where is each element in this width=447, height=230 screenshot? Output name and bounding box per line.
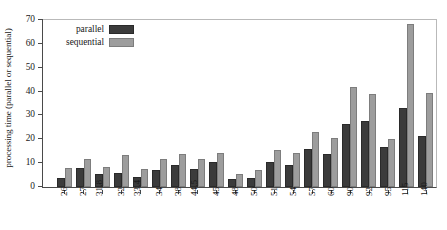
bar-parallel	[380, 147, 387, 187]
bar-group	[245, 20, 264, 187]
bar-sequential	[217, 153, 224, 187]
x-axis-tick-label: 140	[419, 182, 429, 196]
bar-group	[150, 20, 169, 187]
x-axis-tick-group: 33.4	[130, 190, 149, 230]
x-axis-tick-group: 31.8	[92, 190, 111, 230]
x-axis-tick-group: 26	[54, 190, 73, 230]
bar-parallel	[418, 136, 425, 187]
bar-group	[359, 20, 378, 187]
bar-sequential	[331, 138, 338, 187]
x-axis-tick-group: 44.5	[188, 190, 207, 230]
y-axis-tick-label: 70	[26, 13, 35, 26]
bar-sequential	[179, 154, 186, 187]
y-axis-label: processing time (parallel or sequential)	[3, 28, 13, 167]
legend-swatch	[109, 25, 134, 34]
bar-group	[169, 20, 188, 187]
bar-sequential	[65, 168, 72, 187]
bar-sequential	[160, 159, 167, 187]
bar-parallel	[285, 165, 292, 187]
bar-parallel	[266, 162, 273, 187]
x-axis-tick-label: 45	[212, 187, 222, 196]
legend-label: parallel	[76, 24, 104, 35]
bar-sequential	[122, 155, 129, 187]
bar-sequential	[350, 87, 357, 187]
bar-parallel	[57, 178, 64, 187]
bar-sequential	[274, 150, 281, 187]
bar-parallel	[76, 168, 83, 187]
bar-sequential	[369, 94, 376, 187]
x-axis-tick-label: 26	[59, 187, 69, 196]
x-axis-tick-group: 51	[264, 190, 283, 230]
legend-item: sequential	[66, 37, 134, 48]
bar-group	[397, 20, 416, 187]
y-axis-tick-label: 20	[26, 132, 35, 145]
bar-group	[188, 20, 207, 187]
y-axis-tick-label: 40	[26, 85, 35, 98]
x-axis-tick-group: 32	[111, 190, 130, 230]
x-axis-tick-label: 38	[174, 187, 184, 196]
bar-sequential	[255, 170, 262, 187]
bar-parallel	[171, 165, 178, 187]
bar-sequential	[293, 153, 300, 187]
bar-chart-figure: processing time (parallel or sequential)…	[0, 0, 447, 230]
bar-group	[340, 20, 359, 187]
bar-group	[264, 20, 283, 187]
legend-swatch	[109, 38, 134, 47]
y-axis-tick-label: 50	[26, 61, 35, 74]
bar-sequential	[236, 174, 243, 187]
bar-group	[321, 20, 340, 187]
bar-parallel	[228, 179, 235, 187]
legend-label: sequential	[66, 37, 104, 48]
x-axis-tick-label: 51	[269, 187, 279, 196]
x-axis-tick-label: 31.8	[94, 180, 104, 196]
bar-parallel	[114, 173, 121, 187]
bar-group	[378, 20, 397, 187]
x-axis-tick-label: 48	[231, 187, 241, 196]
bar-group	[302, 20, 321, 187]
chart-legend: parallelsequential	[66, 24, 134, 48]
x-axis-tick-label: 95	[384, 187, 394, 196]
x-axis-tick-group: 27	[73, 190, 92, 230]
y-axis-tick-label: 30	[26, 108, 35, 121]
bar-parallel	[399, 108, 406, 187]
x-axis-tick-group: 45	[207, 190, 226, 230]
x-axis-ticks: 262731.83233.4343844.5454850515457609092…	[42, 190, 437, 230]
x-axis-tick-label: 57	[307, 187, 317, 196]
x-axis-tick-label: 27	[78, 187, 88, 196]
bar-parallel	[152, 170, 159, 187]
bar-sequential	[312, 132, 319, 187]
bar-parallel	[342, 124, 349, 187]
y-axis-label-container: processing time (parallel or sequential)	[0, 0, 16, 195]
x-axis-tick-label: 115	[401, 183, 411, 196]
x-axis-tick-group: 140	[417, 190, 436, 230]
bar-sequential	[426, 93, 433, 187]
bar-group	[207, 20, 226, 187]
x-axis-tick-group: 38	[169, 190, 188, 230]
x-axis-tick-group: 34	[149, 190, 168, 230]
bar-group	[283, 20, 302, 187]
y-axis-tick-label: 0	[30, 180, 35, 193]
bar-parallel	[323, 154, 330, 187]
y-axis-tick-label: 60	[26, 37, 35, 50]
bar-parallel	[304, 149, 311, 187]
y-axis-tick-label: 10	[26, 156, 35, 169]
bar-sequential	[388, 139, 395, 187]
x-axis-tick-group: 54	[283, 190, 302, 230]
bar-parallel	[247, 178, 254, 187]
x-axis-tick-label: 50	[250, 187, 260, 196]
x-axis-tick-group: 95	[379, 190, 398, 230]
legend-item: parallel	[66, 24, 134, 35]
x-axis-tick-group: 57	[302, 190, 321, 230]
x-axis-tick-group: 92	[360, 190, 379, 230]
x-axis-tick-group: 115	[398, 190, 417, 230]
x-axis-tick-label: 44.5	[189, 180, 199, 196]
bar-sequential	[84, 159, 91, 187]
x-axis-tick-label: 54	[288, 187, 298, 196]
x-axis-tick-group: 48	[226, 190, 245, 230]
bar-group	[416, 20, 435, 187]
x-axis-tick-label: 32	[116, 187, 126, 196]
x-axis-tick-label: 90	[345, 187, 355, 196]
bar-parallel	[361, 121, 368, 187]
x-axis-tick-label: 34	[154, 187, 164, 196]
x-axis-tick-group: 90	[340, 190, 359, 230]
